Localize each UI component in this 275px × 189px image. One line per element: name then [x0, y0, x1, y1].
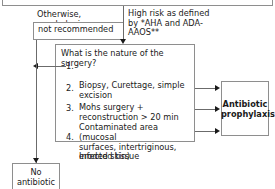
flowchart-canvas: Otherwise, prophylaxis High risk as defi…	[0, 0, 275, 189]
arrowhead-option3-right	[215, 106, 220, 112]
antibiotic-prophylaxis-label: Antibiotic prophylaxis	[221, 99, 269, 120]
option-4-number: 4.	[66, 133, 76, 143]
no-antibiotic-label: No antibiotic	[12, 167, 60, 188]
arrowhead-option4-right	[215, 128, 220, 134]
surgery-option-4: 4. Infected tissue	[66, 133, 192, 172]
option-4-text: Infected tissue	[79, 152, 192, 162]
arrowhead-option2-right	[215, 85, 220, 91]
connector-high-risk-vertical	[123, 22, 124, 40]
connector-option2-to-abx	[195, 88, 216, 89]
option-3-number: 3.	[66, 104, 76, 114]
connector-left-rail-vertical	[36, 40, 37, 163]
connector-option3-to-abx	[195, 109, 216, 110]
parent-decision-box	[2, 0, 273, 6]
connector-option4-to-abx	[195, 131, 216, 132]
not-recommended-label: not recommended	[38, 25, 124, 35]
option-2-number: 2.	[66, 84, 76, 94]
branch-label-high-risk: High risk as defined by *AHA and ADA- AA…	[128, 9, 220, 38]
connector-option1-to-left-rail	[38, 66, 66, 67]
connector-stem-from-parent	[123, 6, 124, 22]
option-1-number: 1.	[66, 62, 76, 72]
